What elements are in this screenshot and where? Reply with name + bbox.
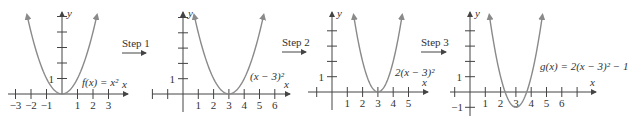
x-tick-label: 2 [360,97,366,109]
step-1-label: Step 1 [122,37,150,49]
x-tick-label: 1 [196,99,202,111]
x-axis-label: x [121,78,127,90]
parabola-right-branch [378,15,402,92]
x-tick-label: 5 [544,97,550,109]
x-tick-label: 4 [390,97,396,109]
step-2-label: Step 2 [282,36,310,48]
parabola-left-branch [194,15,229,94]
function-label: (x − 3)² [250,70,285,83]
x-axis-label: x [589,76,595,88]
parabola-right-branch [229,15,264,94]
step-3: Step 3 [421,36,449,52]
y-tick-label: 1 [457,71,463,83]
x-tick-label: 3 [226,99,232,111]
x-tick-label: 2 [498,97,504,109]
function-label: g(x) = 2(x − 3)² − 1 [540,60,628,73]
x-tick-label: 6 [272,99,278,111]
y-tick-label: 1 [319,71,325,83]
graph-panel-parent: xy−3−2−11231f(x) = x² [8,7,128,111]
parabola-left-branch [489,15,516,107]
x-tick-label: 5 [257,99,263,111]
function-label: 2(x − 3)² [395,66,435,79]
x-tick-label: 4 [528,97,534,109]
x-tick-label: 2 [211,99,217,111]
x-tick-label: 4 [241,99,247,111]
graph-panel-shift-down: xy1234561−1g(x) = 2(x − 3)² − 1 [450,7,628,116]
parabola-right-branch [516,15,543,107]
y-axis-label: y [474,7,480,19]
x-tick-label: 6 [559,97,565,109]
x-tick-label: 3 [106,99,112,111]
x-tick-label: −3 [10,99,22,111]
parabola-left-branch [27,15,62,94]
x-tick-label: −2 [25,99,37,111]
parabola-left-branch [354,15,378,92]
y-tick-label-negative: −1 [451,101,463,113]
x-tick-label: 1 [483,97,489,109]
graph-panel-vertical-stretch: xy1234512(x − 3)² [308,7,435,110]
x-tick-label: −1 [41,99,53,111]
step-1: Step 1 [122,37,150,53]
graph-panel-shift-right: xy1234561(x − 3)² [152,7,290,112]
x-tick-label: 1 [75,99,81,111]
step-3-label: Step 3 [421,36,449,48]
transformation-diagram: Step 1 Step 2 Step 3 xy−3−2−11231f(x) = … [0,0,628,123]
x-tick-label: 5 [406,97,412,109]
function-label: f(x) = x² [82,76,119,89]
y-axis-label: y [336,7,342,19]
y-tick-label: 1 [170,73,176,85]
x-tick-label: 3 [375,97,381,109]
x-tick-label: 2 [90,99,96,111]
step-2: Step 2 [282,36,310,52]
y-axis-label: y [66,7,72,19]
x-tick-label: 1 [345,97,351,109]
